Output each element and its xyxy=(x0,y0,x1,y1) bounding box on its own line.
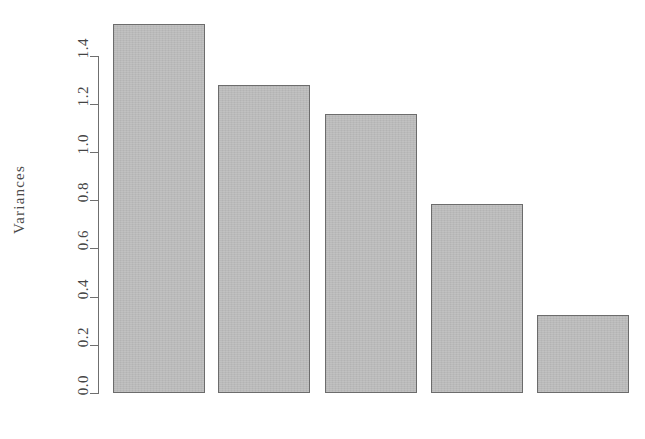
bottom-caption xyxy=(0,430,645,439)
bar-component-5 xyxy=(537,315,629,393)
bar-series xyxy=(0,0,645,439)
bar-component-1 xyxy=(113,24,205,393)
scree-plot-canvas: 1.4 1.2 1.0 0.8 0.6 0.4 0.2 0.0 Variance… xyxy=(0,0,645,439)
bar-component-4 xyxy=(431,204,523,393)
bar-component-2 xyxy=(218,85,310,393)
bar-component-3 xyxy=(325,114,417,393)
